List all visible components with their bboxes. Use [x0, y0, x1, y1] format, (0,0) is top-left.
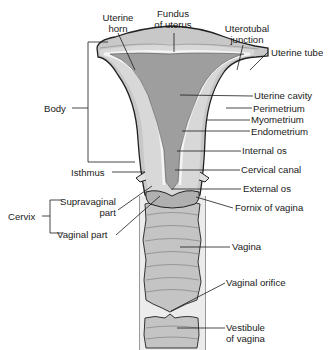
label-fundus: Fundus of uterus — [146, 8, 200, 30]
label-line: Supravaginal — [54, 196, 116, 207]
label-line: part — [54, 207, 116, 218]
vagina-body — [143, 199, 201, 312]
label-vaginal-part: Vaginal part — [57, 229, 108, 240]
label-cervical-canal: Cervical canal — [241, 164, 301, 175]
label-vestibule-of-vagina: Vestibule of vagina — [226, 322, 265, 344]
label-uterine-tube: Uterine tube — [271, 47, 323, 58]
label-myometrium: Myometrium — [251, 114, 304, 125]
label-line: Uterine — [98, 12, 138, 23]
label-isthmus: Isthmus — [71, 167, 105, 178]
label-uterotubal-junction: Uterotubal junction — [222, 23, 272, 45]
label-line: of vagina — [226, 333, 265, 344]
label-line: junction — [222, 34, 272, 45]
label-endometrium: Endometrium — [251, 126, 308, 137]
label-line: Fundus — [146, 8, 200, 19]
label-line: horn — [98, 23, 138, 34]
label-internal-os: Internal os — [242, 145, 287, 156]
vestibule-segment — [144, 314, 199, 348]
uterus-anatomy-diagram: Uterine horn Fundus of uterus Uterotubal… — [0, 0, 335, 350]
label-fornix-of-vagina: Fornix of vagina — [235, 202, 303, 213]
label-line: Uterotubal — [222, 23, 272, 34]
isthmus-ligament-right — [199, 172, 209, 182]
label-perimetrium: Perimetrium — [253, 103, 305, 114]
label-line: Vestibule — [226, 322, 265, 333]
label-uterine-cavity: Uterine cavity — [254, 90, 312, 101]
label-vagina: Vagina — [232, 241, 261, 252]
label-cervix: Cervix — [8, 211, 35, 222]
label-body: Body — [44, 103, 66, 114]
label-external-os: External os — [243, 183, 291, 194]
label-supravaginal-part: Supravaginal part — [54, 196, 116, 218]
label-line: of uterus — [146, 19, 200, 30]
label-uterine-horn: Uterine horn — [98, 12, 138, 34]
label-vaginal-orifice: Vaginal orifice — [226, 277, 286, 288]
